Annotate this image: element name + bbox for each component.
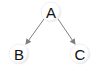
edge-a-c — [58, 19, 75, 44]
node-a[interactable]: A — [41, 2, 61, 22]
node-c-label: C — [75, 46, 86, 63]
edge-a-b — [26, 19, 44, 44]
node-b[interactable]: B — [9, 44, 29, 64]
node-b-label: B — [14, 46, 24, 63]
tree-diagram: A B C — [0, 0, 99, 71]
node-c[interactable]: C — [70, 44, 90, 64]
node-a-label: A — [46, 4, 56, 21]
